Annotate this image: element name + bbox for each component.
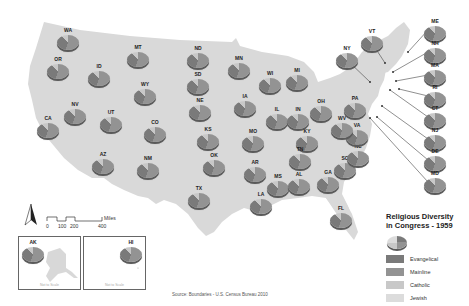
state-pie-nh [424, 48, 446, 63]
state-pie-fl [330, 213, 352, 228]
legend-pie-icon [387, 236, 407, 249]
hawaii-inset: Not to Scale [83, 236, 146, 290]
state-label: ME [431, 19, 439, 24]
state-label: IL [275, 107, 279, 112]
state-pie-ga [317, 177, 339, 192]
state-label: VT [369, 29, 375, 34]
state-label: MN [235, 56, 243, 61]
legend-title-line1: Religious Diversity [386, 212, 466, 221]
state-pie-ms [267, 181, 289, 196]
state-label: WI [267, 71, 273, 76]
state-label: MT [134, 45, 141, 50]
state-label: TN [297, 147, 304, 152]
state-label: NV [72, 102, 79, 107]
scale-tick-100: 100 [58, 223, 66, 229]
state-pie-az [92, 159, 114, 174]
state-label: ND [194, 46, 201, 51]
mainline-swatch [386, 268, 404, 276]
legend-item-catholic: Catholic [386, 279, 466, 290]
state-pie-wi [259, 78, 281, 93]
source-note: Source: Boundaries - U.S. Census Bureau … [172, 292, 268, 297]
state-label: HI [129, 240, 134, 245]
alaska-scale-note: Not to Scale [19, 283, 80, 287]
state-pie-ne [189, 105, 211, 120]
state-pie-il [266, 114, 288, 129]
state-label: AR [251, 160, 258, 165]
state-pie-tx [188, 193, 210, 208]
state-pie-ar [244, 167, 266, 182]
state-label: FL [338, 206, 344, 211]
legend-item-mainline: Mainline [386, 266, 466, 277]
state-label: WY [141, 82, 149, 87]
state-pie-co [144, 127, 166, 142]
state-label: KS [205, 127, 212, 132]
state-label: KY [304, 129, 311, 134]
state-pie-oh [310, 106, 332, 121]
north-arrow-icon [25, 204, 37, 225]
hawaii-scale-note: Not to Scale [84, 283, 145, 287]
state-pie-pa [344, 103, 366, 118]
state-label: PA [352, 96, 359, 101]
legend-label: Catholic [410, 282, 430, 288]
state-label: WA [64, 28, 72, 33]
state-pie-mn [228, 63, 250, 78]
state-pie-ca [37, 123, 59, 138]
state-label: MO [249, 129, 257, 134]
state-label: VA [354, 123, 361, 128]
state-pie-nv [64, 109, 86, 124]
legend: Religious Diversity in Congress - 1959 E… [386, 212, 466, 305]
state-label: NY [344, 46, 351, 51]
state-label: OR [54, 57, 62, 62]
state-pie-nm [137, 163, 159, 178]
state-label: ID [97, 64, 102, 69]
state-pie-md [424, 178, 446, 193]
state-label: SD [195, 72, 202, 77]
state-label: AL [296, 172, 303, 177]
state-label: CT [432, 106, 439, 111]
state-label: AZ [100, 152, 107, 157]
state-label: OH [317, 99, 325, 104]
scale-tick-0: 0 [46, 223, 49, 229]
state-label: IA [243, 94, 248, 99]
state-pie-ks [197, 134, 219, 149]
state-pie-wa [57, 35, 79, 50]
state-pie-ia [234, 101, 256, 116]
state-pie-vt [361, 36, 383, 51]
state-pie-ct [424, 113, 446, 128]
legend-label: Jewish [410, 295, 427, 301]
state-pie-wv [331, 123, 353, 138]
scale-tick-200: 200 [70, 223, 78, 229]
state-label: MA [431, 63, 439, 68]
state-pie-mt [127, 52, 149, 67]
catholic-swatch [386, 281, 404, 289]
state-pie-nd [187, 53, 209, 68]
legend-item-evangelical: Evangelical [386, 253, 466, 264]
state-label: CA [44, 116, 51, 121]
state-pie-de [424, 156, 446, 171]
state-pie-ut [100, 117, 122, 132]
state-label: RI [433, 85, 438, 90]
state-label: TX [196, 186, 202, 191]
scale-tick-400: 400 [98, 223, 106, 229]
state-label: DE [432, 149, 439, 154]
state-pie-mi [286, 75, 308, 90]
legend-item-jewish: Jewish [386, 292, 466, 303]
evangelical-swatch [386, 255, 404, 263]
scale-bar [47, 217, 102, 221]
state-label: NH [431, 41, 438, 46]
state-label: WV [338, 116, 346, 121]
state-pie-nc [347, 151, 369, 166]
state-pie-tn [289, 154, 311, 169]
state-label: NE [197, 98, 204, 103]
state-pie-ma [424, 70, 446, 85]
state-pie-ok [203, 160, 225, 175]
state-label: LA [258, 192, 265, 197]
state-label: OK [210, 153, 218, 158]
state-pie-or [47, 64, 69, 79]
jewish-swatch [386, 294, 404, 302]
state-pie-ny [336, 53, 358, 68]
state-pie-la [250, 199, 272, 214]
alaska-inset: Not to Scale [18, 236, 81, 290]
legend-label: Evangelical [410, 256, 438, 262]
scale-unit: Miles [104, 215, 116, 221]
